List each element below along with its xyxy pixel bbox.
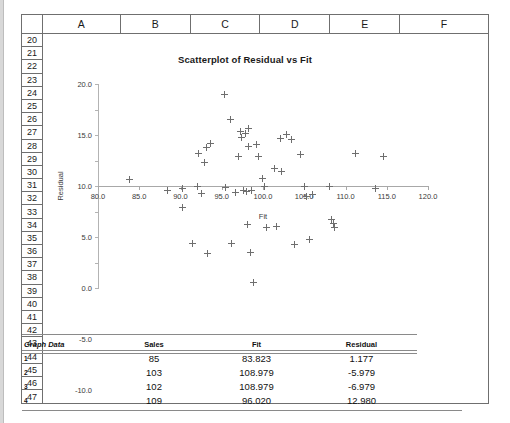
y-axis-tick-label: 0.0 (82, 284, 92, 293)
row-index: 1 (22, 355, 104, 362)
y-axis-tick-label: 20.0 (77, 80, 92, 89)
scatter-point (235, 153, 242, 160)
scatter-point (255, 153, 262, 160)
cell-residual: 12.980 (309, 395, 414, 406)
column-header-d[interactable]: D (260, 15, 330, 34)
table-body: 18583.8231.1772103108.979-5.9793102108.9… (22, 351, 417, 407)
column-header-e[interactable]: E (330, 15, 400, 34)
y-axis-tick: 20.0 (95, 84, 99, 85)
x-axis-tick (263, 186, 264, 190)
x-axis-title: Fit (98, 212, 428, 221)
page-left-edge-shadow (3, 0, 4, 423)
scatter-point (221, 91, 228, 98)
table-rule-inner-2 (22, 353, 417, 354)
column-header-residual: Residual (309, 340, 414, 349)
table-row: 410996.02012.980 (22, 393, 417, 407)
y-axis-tick-label: 10.0 (77, 182, 92, 191)
table-header-row: Graph Data Sales Fit Residual (22, 337, 417, 351)
y-axis-tick-label: 15.0 (77, 131, 92, 140)
cell-fit: 96.020 (204, 395, 309, 406)
scatter-point (179, 204, 186, 211)
cell-fit: 108.979 (204, 367, 309, 378)
scatter-point (189, 240, 196, 247)
y-axis-tick: -15.0 (95, 263, 99, 264)
scatter-point (195, 150, 202, 157)
x-axis-tick (222, 186, 223, 190)
row-header-41[interactable]: 41 (22, 311, 42, 324)
x-axis-tick (304, 186, 305, 190)
scatter-point (207, 140, 214, 147)
cell-sales: 103 (104, 367, 204, 378)
scatter-point (331, 224, 338, 231)
scatter-point (228, 240, 235, 247)
scatter-point (263, 224, 270, 231)
scatter-point (253, 141, 260, 148)
x-axis-tick-label: 120.0 (419, 192, 438, 201)
scatter-point (250, 279, 257, 286)
scatter-point (380, 153, 387, 160)
scatter-point (306, 236, 313, 243)
chart-title: Scatterplot of Residual vs Fit (30, 54, 460, 65)
column-header-a[interactable]: A (43, 15, 121, 34)
scatter-chart: Scatterplot of Residual vs Fit Residual … (30, 42, 460, 302)
scatter-point (126, 176, 133, 183)
cell-sales: 102 (104, 381, 204, 392)
x-axis-tick (181, 186, 182, 190)
y-axis-tick: -10.0 (95, 237, 99, 238)
cell-fit: 83.823 (204, 353, 309, 364)
scatter-point (232, 189, 239, 196)
x-axis-tick (346, 186, 347, 190)
x-axis-tick-label: 95.0 (214, 192, 229, 201)
scatter-point (273, 223, 280, 230)
x-axis-tick (428, 186, 429, 190)
scatter-point (271, 165, 278, 172)
table-row: 2103108.979-5.979 (22, 365, 417, 379)
table-label-cell: Graph Data (22, 340, 104, 349)
table-row: 3102108.979-6.979 (22, 379, 417, 393)
column-header-c[interactable]: C (191, 15, 261, 34)
cell-sales: 85 (104, 353, 204, 364)
x-axis-tick-label: 80.0 (91, 192, 106, 201)
scatter-point (352, 150, 359, 157)
y-axis-tick: -5.0 (95, 212, 99, 213)
table-rule-bottom (22, 410, 462, 411)
column-header-f[interactable]: F (400, 15, 488, 34)
x-axis-tick (139, 186, 140, 190)
x-axis-tick-label: 110.0 (336, 192, 354, 201)
cell-fit: 108.979 (204, 381, 309, 392)
column-header-b[interactable]: B (121, 15, 191, 34)
cell-residual: -6.979 (309, 381, 414, 392)
graph-data-table: Graph Data Sales Fit Residual 18583.8231… (22, 337, 417, 407)
scatter-point (244, 221, 251, 228)
row-index: 3 (22, 383, 104, 390)
scatter-point (291, 241, 298, 248)
x-axis-tick-label: 100.0 (254, 192, 273, 201)
y-axis-title: Residual (56, 171, 65, 200)
y-axis-tick: -20.0 (95, 288, 99, 289)
y-axis-tick: 10.0 (95, 135, 99, 136)
scatter-point (278, 168, 285, 175)
table-rule-inner-1 (22, 350, 417, 351)
x-axis-tick-label: 105.0 (295, 192, 314, 201)
scatter-point (259, 175, 266, 182)
scatter-point (238, 134, 245, 141)
scatter-point (277, 135, 284, 142)
select-all-corner[interactable] (22, 15, 43, 34)
scatter-point (247, 249, 254, 256)
scatter-point (198, 190, 205, 197)
column-header-sales: Sales (104, 340, 204, 349)
x-axis-tick-label: 85.0 (132, 192, 147, 201)
x-axis-tick (387, 186, 388, 190)
scatter-point (242, 130, 249, 137)
x-axis-tick-label: 90.0 (173, 192, 188, 201)
scatter-point (245, 125, 252, 132)
row-header-42[interactable]: 42 (22, 324, 42, 337)
scatter-point (203, 144, 210, 151)
scatter-point (237, 128, 244, 135)
scatter-point (164, 187, 171, 194)
y-axis-tick: 15.0 (95, 110, 99, 111)
y-axis-tick: 5.0 (95, 161, 99, 162)
column-header-row: ABCDEF (22, 15, 488, 34)
scatter-point (201, 159, 208, 166)
row-index: 4 (22, 397, 104, 404)
